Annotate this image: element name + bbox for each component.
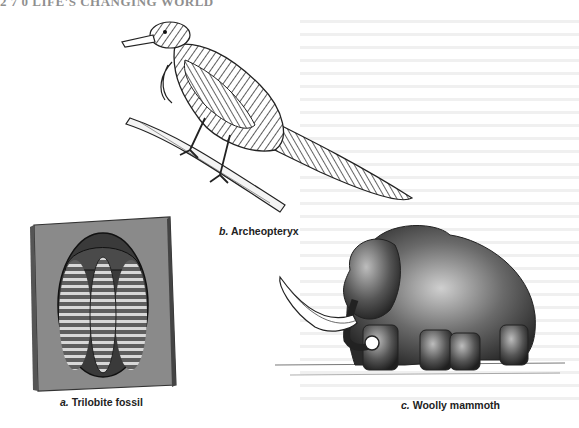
woolly-mammoth-illustration [275,215,575,395]
figure-caption-woolly-mammoth: c. Woolly mammoth [401,399,500,411]
trilobite-fossil-illustration [30,215,180,395]
archeopteryx-illustration [120,0,420,215]
figure-caption-trilobite: a. Trilobite fossil [60,396,143,408]
